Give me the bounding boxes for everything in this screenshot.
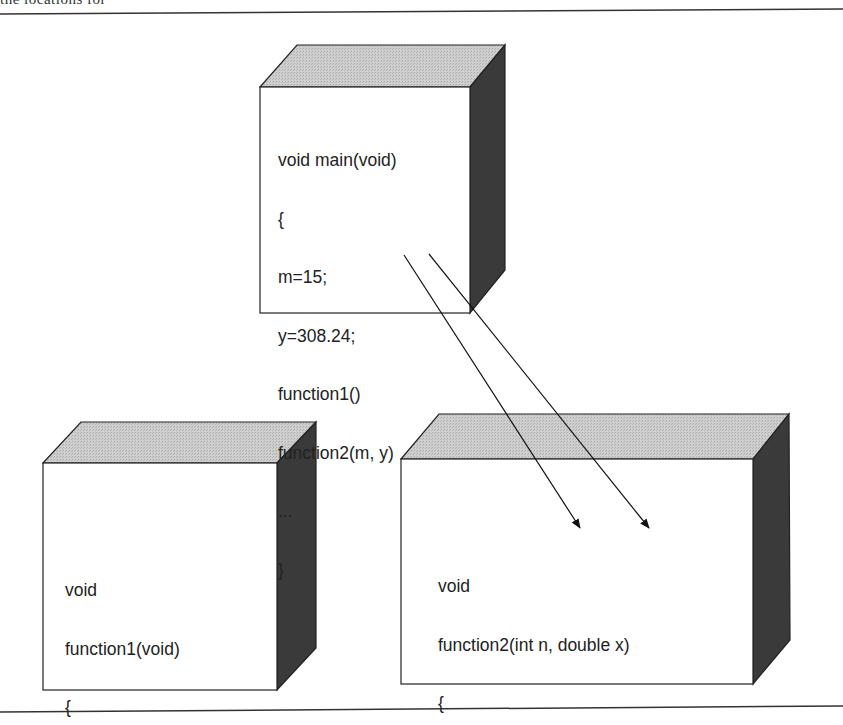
function2-cube-top [401,414,789,459]
code-line: void main(void) [278,151,397,171]
code-line: void [65,581,180,601]
function1-code-block: void function1(void) { ... ... } [65,542,180,725]
function1-cube-top [43,422,316,463]
main-cube-side [470,45,505,313]
code-line: { [278,210,397,230]
function2-code-block: void function2(int n, double x) { statem… [438,538,633,725]
code-line: ... [278,502,397,522]
code-line: m=15; [278,268,397,288]
code-line: y=308.24; [278,327,397,347]
function2-cube-side [753,414,790,684]
code-line: { [438,694,633,714]
code-line: function2(m, y) [278,444,397,464]
top-rule [0,9,843,14]
code-line: { [65,698,180,718]
main-cube-top [260,45,505,87]
code-line: } [278,561,397,581]
main-code-block: void main(void) { m=15; y=308.24; functi… [278,112,397,600]
code-line: void [438,577,633,597]
code-line: function2(int n, double x) [438,636,633,656]
code-line: function1() [278,385,397,405]
code-line: function1(void) [65,640,180,660]
